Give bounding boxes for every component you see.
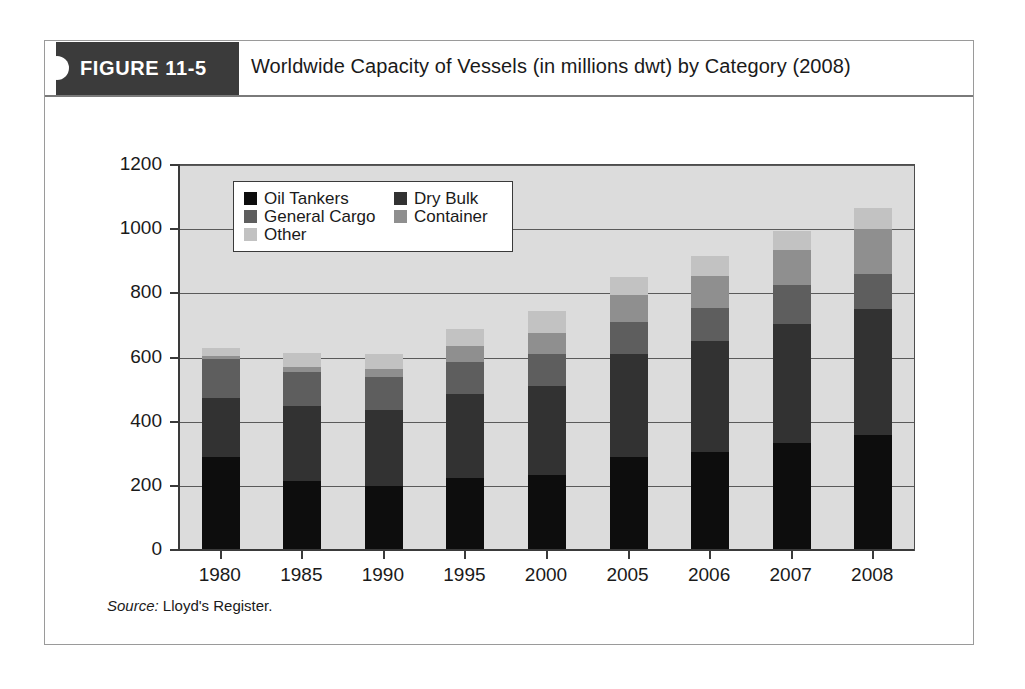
bar-segment (610, 277, 648, 295)
y-axis-tick-label: 1200 (100, 153, 162, 175)
bar-segment (528, 386, 566, 474)
bar-segment (773, 324, 811, 443)
bar-segment (283, 372, 321, 406)
legend-label-dry-bulk: Dry Bulk (414, 190, 478, 207)
bar-segment (773, 443, 811, 550)
x-axis-tick-label: 2007 (751, 564, 831, 586)
title-divider (45, 95, 973, 97)
bar-segment (283, 406, 321, 481)
legend-label-container: Container (414, 208, 488, 225)
bar-2007[interactable] (773, 231, 811, 550)
x-axis-tick-label: 1985 (261, 564, 341, 586)
bar-segment (691, 276, 729, 308)
x-axis-tick-label: 1980 (180, 564, 260, 586)
bar-segment (365, 377, 403, 411)
chart-canvas: Oil Tankers Dry Bulk General Cargo Conta… (45, 41, 975, 646)
x-axis-tick-label: 2006 (669, 564, 749, 586)
bar-segment (446, 394, 484, 477)
legend-item-general-cargo[interactable]: General Cargo (244, 208, 394, 225)
legend-label-general-cargo: General Cargo (264, 208, 376, 225)
x-axis-tick (628, 551, 630, 559)
legend-label-oil-tankers: Oil Tankers (264, 190, 349, 207)
x-axis-tick (791, 551, 793, 559)
x-axis-tick-label: 2008 (832, 564, 912, 586)
legend-swatch-oil-tankers (244, 192, 257, 205)
y-axis-tick (170, 421, 178, 423)
bar-1985[interactable] (283, 353, 321, 550)
y-axis-tick (170, 485, 178, 487)
source-label: Source: (107, 597, 159, 614)
gridline (180, 165, 914, 166)
legend-item-container[interactable]: Container (394, 208, 488, 225)
bar-segment (528, 475, 566, 550)
source-note: Source: Lloyd's Register. (107, 597, 272, 614)
legend-item-other[interactable]: Other (244, 226, 394, 243)
bar-segment (446, 478, 484, 550)
legend-swatch-dry-bulk (394, 192, 407, 205)
y-axis-tick (170, 228, 178, 230)
bar-2008[interactable] (854, 208, 892, 550)
figure-title: Worldwide Capacity of Vessels (in millio… (251, 55, 851, 78)
bar-1980[interactable] (202, 348, 240, 550)
bar-segment (365, 354, 403, 368)
bar-segment (202, 398, 240, 457)
y-axis-tick-label: 400 (100, 410, 162, 432)
bar-segment (446, 346, 484, 362)
bar-segment (202, 359, 240, 398)
y-axis-tick (170, 549, 178, 551)
x-axis-tick-label: 1995 (424, 564, 504, 586)
x-axis-tick (709, 551, 711, 559)
bar-segment (283, 481, 321, 550)
figure-number-label: FIGURE 11-5 (80, 57, 207, 80)
x-axis-tick-label: 1990 (343, 564, 423, 586)
figure-frame: Oil Tankers Dry Bulk General Cargo Conta… (44, 40, 974, 645)
bar-segment (691, 341, 729, 452)
legend-swatch-other (244, 228, 257, 241)
bar-2006[interactable] (691, 256, 729, 550)
legend-swatch-general-cargo (244, 210, 257, 223)
bar-segment (854, 229, 892, 274)
y-axis-tick (170, 164, 178, 166)
legend-row: Other (244, 226, 504, 243)
bar-segment (365, 486, 403, 550)
bar-segment (202, 348, 240, 356)
bar-segment (773, 285, 811, 324)
bar-2000[interactable] (528, 311, 566, 550)
bar-segment (610, 322, 648, 354)
bar-2005[interactable] (610, 277, 648, 550)
figure-number-tab: FIGURE 11-5 (56, 42, 239, 95)
bar-segment (610, 295, 648, 322)
legend-item-dry-bulk[interactable]: Dry Bulk (394, 190, 478, 207)
bar-segment (610, 457, 648, 550)
bar-segment (854, 309, 892, 434)
bar-segment (691, 452, 729, 550)
legend-row: General Cargo Container (244, 208, 504, 225)
x-axis-tick (220, 551, 222, 559)
bar-segment (202, 457, 240, 550)
legend-item-oil-tankers[interactable]: Oil Tankers (244, 190, 394, 207)
y-axis-tick-label: 800 (100, 281, 162, 303)
legend-row: Oil Tankers Dry Bulk (244, 190, 504, 207)
bar-segment (528, 354, 566, 386)
bar-segment (365, 410, 403, 485)
bar-segment (854, 274, 892, 309)
bar-segment (446, 329, 484, 347)
y-axis-tick-label: 1000 (100, 217, 162, 239)
chart-legend: Oil Tankers Dry Bulk General Cargo Conta… (233, 181, 513, 252)
bar-1995[interactable] (446, 329, 484, 550)
legend-swatch-container (394, 210, 407, 223)
bar-segment (691, 308, 729, 342)
legend-label-other: Other (264, 226, 307, 243)
x-axis-tick (383, 551, 385, 559)
bar-segment (854, 208, 892, 229)
y-axis-line (178, 164, 180, 550)
y-axis-tick-label: 200 (100, 474, 162, 496)
y-axis-tick-label: 0 (100, 538, 162, 560)
bar-segment (773, 231, 811, 250)
bar-segment (283, 353, 321, 367)
y-axis-tick (170, 292, 178, 294)
bar-segment (610, 354, 648, 457)
bar-segment (528, 311, 566, 333)
y-axis-tick-label: 600 (100, 346, 162, 368)
bar-1990[interactable] (365, 354, 403, 550)
